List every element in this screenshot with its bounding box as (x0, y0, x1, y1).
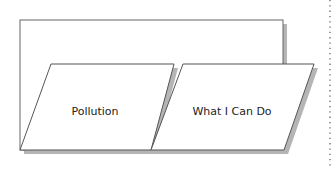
tab-label-what-i-can-do: What I Can Do (192, 105, 271, 118)
tab-label-pollution: Pollution (71, 105, 118, 118)
foldable-diagram: Pollution What I Can Do (0, 0, 336, 169)
